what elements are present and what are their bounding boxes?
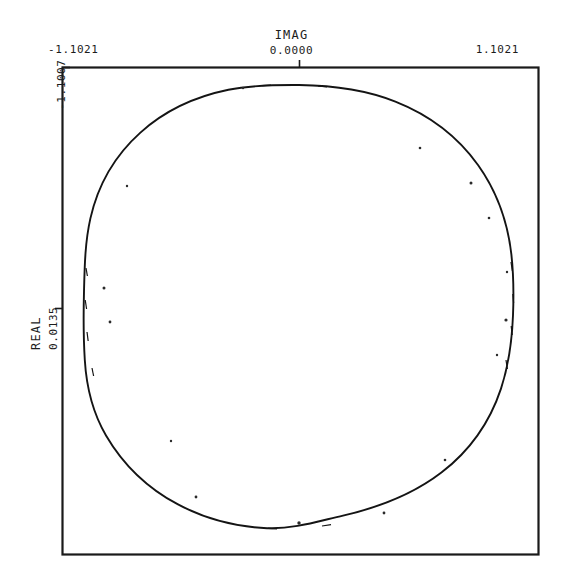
outlier-points xyxy=(103,87,509,525)
x-axis-tick-label-min: -1.1021 xyxy=(48,44,99,55)
chart-title: IMAG xyxy=(0,29,583,41)
plot-canvas xyxy=(0,0,583,581)
x-axis-tick-label-max: 1.1021 xyxy=(476,44,519,55)
complex-plane-plot: IMAG 0.0000 -1.1021 1.1021 -1.1007 REAL … xyxy=(0,0,583,581)
data-series-unit-circle xyxy=(84,85,514,529)
curve-texture xyxy=(85,85,513,529)
plot-frame-box xyxy=(63,68,539,555)
y-axis-title: REAL xyxy=(30,316,42,350)
y-axis-tick-label-mid: 0.0135 xyxy=(48,307,59,350)
y-axis-tick-label-max: -1.1007 xyxy=(56,59,67,110)
